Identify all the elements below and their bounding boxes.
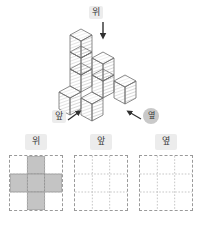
panel-side-view: 옆	[138, 134, 194, 211]
cube	[92, 52, 114, 81]
grid-svg-side	[140, 156, 192, 210]
grid-cell-filled[interactable]	[45, 174, 62, 192]
figure-label-front: 앞	[52, 110, 66, 123]
cube	[114, 75, 136, 104]
cube-group	[59, 29, 136, 121]
grid-side-view[interactable]	[139, 155, 193, 211]
grid-cell-filled[interactable]	[27, 192, 44, 210]
grid-svg-front	[75, 156, 127, 210]
grid-cell-filled[interactable]	[27, 156, 44, 174]
panel-front-view: 앞	[73, 134, 129, 211]
figure-label-top: 위	[89, 6, 103, 19]
cube	[70, 29, 92, 58]
isometric-figure-area: 위 앞 옆	[0, 0, 202, 134]
cube-stack-illustration	[0, 0, 202, 134]
cube	[81, 92, 103, 121]
figure-label-side: 옆	[143, 108, 159, 124]
grid-svg-top	[10, 156, 62, 210]
answer-panels: 위 앞 옆	[0, 134, 202, 225]
panel-title-side: 옆	[155, 134, 177, 150]
grid-cell-filled[interactable]	[10, 174, 27, 192]
panel-top-view: 위	[8, 134, 64, 211]
up-left-arrow-icon	[129, 112, 141, 119]
panel-title-top: 위	[25, 134, 47, 150]
grid-front-view[interactable]	[74, 155, 128, 211]
grid-cell-filled[interactable]	[27, 174, 44, 192]
panel-title-front: 앞	[90, 134, 112, 150]
grid-top-view[interactable]	[9, 155, 63, 211]
